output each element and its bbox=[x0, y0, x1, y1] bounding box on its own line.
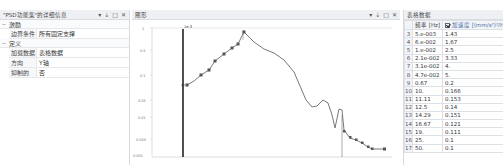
column-header-acceleration[interactable]: 加速度 [(mm/s²)²/Hz] bbox=[443, 21, 503, 30]
prop-key: 边界条件 bbox=[9, 29, 37, 38]
psd-curve bbox=[187, 32, 384, 149]
cell-frequency[interactable]: 3.1e-002 bbox=[413, 62, 443, 70]
prop-key: 加载数据 bbox=[9, 48, 37, 57]
y-tick-labels: 1 0.5 0.1 0.05 0.01 0.005 0.001 bbox=[133, 27, 146, 158]
prop-key: 方向 bbox=[9, 58, 37, 67]
svg-text:0.5: 0.5 bbox=[140, 49, 146, 53]
cell-frequency[interactable]: 5.e-003 bbox=[413, 30, 443, 38]
table-row[interactable]: 35.e-0031.43 bbox=[405, 30, 503, 38]
collapse-icon[interactable]: − bbox=[2, 40, 9, 46]
pin-icon[interactable]: ⇣ bbox=[104, 11, 109, 18]
group-excitation[interactable]: − 激励 bbox=[0, 20, 129, 29]
table-row[interactable]: 51.e-0022.5 bbox=[405, 46, 503, 54]
cell-frequency[interactable]: 0.67 bbox=[413, 79, 443, 87]
cell-frequency[interactable]: 14.29 bbox=[413, 111, 443, 119]
cell-frequency[interactable]: 50. bbox=[413, 144, 443, 152]
table-row[interactable]: 1750.0.1 bbox=[405, 144, 503, 152]
svg-text:0.05: 0.05 bbox=[138, 99, 146, 103]
cell-frequency[interactable]: 4.7e-002 bbox=[413, 70, 443, 78]
row-index-header bbox=[405, 21, 413, 30]
cell-value[interactable]: 0.121 bbox=[443, 120, 503, 128]
cell-value[interactable]: 0.111 bbox=[443, 128, 503, 136]
table-panel-header: 表格数据 bbox=[404, 10, 503, 20]
prop-value[interactable]: 表格数据 bbox=[37, 48, 129, 57]
cell-value[interactable]: 4. bbox=[443, 62, 503, 70]
prop-value[interactable]: Y轴 bbox=[37, 58, 129, 67]
prop-row-suppressed[interactable]: 抑制的 否 bbox=[9, 68, 129, 78]
cursor-label: 1e-3 bbox=[184, 25, 192, 29]
details-panel-header: "PSD功能集"的详细信息 ▾ ⇣ □ ✕ bbox=[0, 10, 129, 20]
cell-value[interactable]: 3.33 bbox=[443, 54, 503, 62]
group-label: 定义 bbox=[9, 39, 21, 48]
graph-panel-header: 图形 ▾ ⇣ □ ✕ bbox=[132, 10, 400, 20]
cell-frequency[interactable]: 12.5 bbox=[413, 103, 443, 111]
column-header-frequency[interactable]: 频率 [Hz] bbox=[413, 21, 443, 30]
cell-value[interactable]: 0.153 bbox=[443, 95, 503, 103]
prop-row-direction[interactable]: 方向 Y轴 bbox=[9, 58, 129, 68]
group-definition[interactable]: − 定义 bbox=[0, 39, 129, 48]
cell-frequency[interactable]: 6.e-002 bbox=[413, 38, 443, 46]
table-row[interactable]: 1416.670.121 bbox=[405, 120, 503, 128]
cell-value[interactable]: 0.1 bbox=[443, 144, 503, 152]
prop-value[interactable]: 否 bbox=[37, 68, 129, 77]
pin-icon[interactable]: ⇣ bbox=[375, 11, 380, 18]
cell-frequency[interactable]: 1.e-002 bbox=[413, 46, 443, 54]
cell-frequency[interactable]: 25. bbox=[413, 136, 443, 144]
svg-text:0.1: 0.1 bbox=[140, 74, 146, 78]
table-row[interactable]: 1519.0.111 bbox=[405, 128, 503, 136]
table-header-row: 频率 [Hz] 加速度 [(mm/s²)²/Hz] bbox=[405, 21, 503, 30]
table-row[interactable]: 1625.0.1 bbox=[405, 136, 503, 144]
cell-value[interactable]: 5. bbox=[443, 70, 503, 78]
cursor-point bbox=[182, 84, 185, 87]
graph-panel-title: 图形 bbox=[135, 11, 369, 19]
details-panel-title: "PSD功能集"的详细信息 bbox=[3, 11, 98, 19]
table-row[interactable]: 84.7e-0025. bbox=[405, 70, 503, 78]
cell-value[interactable]: 1.67 bbox=[443, 38, 503, 46]
graph-panel: 图形 ▾ ⇣ □ ✕ 1 0.5 0.1 0.05 0.01 0.005 0.0… bbox=[132, 10, 400, 165]
dropdown-icon[interactable]: ▾ bbox=[98, 11, 101, 18]
cell-frequency[interactable]: 16.67 bbox=[413, 120, 443, 128]
table-row[interactable]: 1111.110.153 bbox=[405, 95, 503, 103]
prop-key: 抑制的 bbox=[9, 68, 37, 77]
table-row[interactable]: 73.1e-0024. bbox=[405, 62, 503, 70]
table-row[interactable]: 1314.290.151 bbox=[405, 111, 503, 119]
table-row[interactable]: 62.1e-0023.33 bbox=[405, 54, 503, 62]
group-label: 激励 bbox=[9, 20, 21, 29]
dropdown-icon[interactable]: ▾ bbox=[369, 11, 372, 18]
details-panel: "PSD功能集"的详细信息 ▾ ⇣ □ ✕ − 激励 边界条件 所有固定支撑 −… bbox=[0, 10, 130, 165]
cell-frequency[interactable]: 11.11 bbox=[413, 95, 443, 103]
svg-text:0.005: 0.005 bbox=[136, 138, 146, 142]
table-row[interactable]: 90.670.2 bbox=[405, 79, 503, 87]
table-row[interactable]: 1010.0.166 bbox=[405, 87, 503, 95]
data-markers bbox=[186, 31, 387, 151]
maximize-icon[interactable]: □ bbox=[112, 11, 118, 18]
prop-row-load-data[interactable]: 加载数据 表格数据 bbox=[9, 48, 129, 58]
cell-value[interactable]: 0.151 bbox=[443, 111, 503, 119]
cell-value[interactable]: 0.1 bbox=[443, 136, 503, 144]
table-data-panel: 表格数据 频率 [Hz] 加速度 [(mm/s²)²/Hz] 35.e-0031… bbox=[403, 10, 503, 165]
cell-frequency[interactable]: 2.1e-002 bbox=[413, 54, 443, 62]
prop-value[interactable]: 所有固定支撑 bbox=[37, 29, 129, 38]
table-row[interactable]: 1212.50.14 bbox=[405, 103, 503, 111]
maximize-icon[interactable]: □ bbox=[383, 11, 389, 18]
cell-value[interactable]: 2.5 bbox=[443, 46, 503, 54]
checkbox-icon[interactable] bbox=[445, 23, 450, 28]
svg-text:0.01: 0.01 bbox=[138, 116, 146, 120]
cell-value[interactable]: 0.166 bbox=[443, 87, 503, 95]
prop-row-boundary[interactable]: 边界条件 所有固定支撑 bbox=[9, 29, 129, 39]
cell-frequency[interactable]: 19. bbox=[413, 128, 443, 136]
cell-value[interactable]: 0.2 bbox=[443, 79, 503, 87]
svg-text:0.001: 0.001 bbox=[133, 154, 143, 158]
close-icon[interactable]: ✕ bbox=[121, 11, 126, 18]
svg-text:1: 1 bbox=[142, 27, 144, 31]
table-panel-title: 表格数据 bbox=[407, 11, 500, 19]
cell-frequency[interactable]: 10. bbox=[413, 87, 443, 95]
cell-value[interactable]: 1.43 bbox=[443, 30, 503, 38]
psd-chart[interactable]: 1 0.5 0.1 0.05 0.01 0.005 0.001 1e-3 bbox=[132, 20, 400, 165]
collapse-icon[interactable]: − bbox=[2, 21, 9, 27]
cell-value[interactable]: 0.14 bbox=[443, 103, 503, 111]
data-table[interactable]: 频率 [Hz] 加速度 [(mm/s²)²/Hz] 35.e-0031.43 4… bbox=[404, 20, 503, 153]
table-row[interactable]: 46.e-0021.67 bbox=[405, 38, 503, 46]
close-icon[interactable]: ✕ bbox=[392, 11, 397, 18]
